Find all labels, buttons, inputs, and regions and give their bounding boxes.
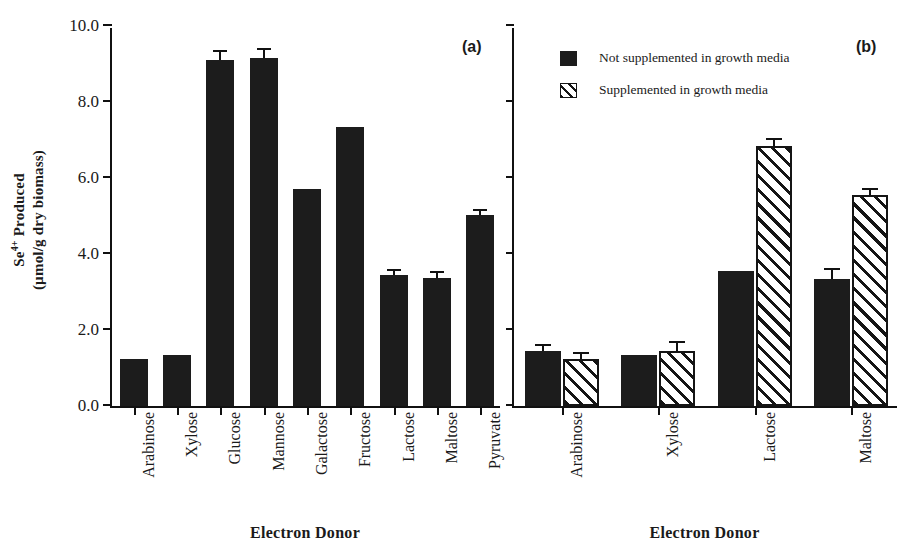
panel-a-plot-area: 0.02.04.06.08.010.0 xyxy=(110,28,500,408)
bar-b-xylose-hatch xyxy=(659,351,695,406)
panel-a-x-axis-title: Electron Donor xyxy=(110,524,500,542)
y-tick-b-0 xyxy=(506,404,514,406)
bar-b-arabinose-solid xyxy=(525,351,561,406)
panel-a-x-tick-labels: ArabinoseXyloseGlucoseMannoseGalactoseFr… xyxy=(110,412,500,516)
y-axis-title-line2: (µmol/g dry biomass) xyxy=(29,150,48,290)
figure-root: Se4+ Produced (µmol/g dry biomass) (a) 0… xyxy=(0,0,905,560)
panel-a-bars xyxy=(112,28,500,406)
bar-a-mannose xyxy=(250,58,278,406)
x-label-a-fructose: Fructose xyxy=(356,412,374,516)
x-label-a-mannose: Mannose xyxy=(270,412,288,516)
x-label-b-maltose: Maltose xyxy=(857,412,875,516)
panel-b: (b) Not supplemented in growth media Sup… xyxy=(512,28,897,410)
y-tick-label-1: 2.0 xyxy=(78,320,99,340)
x-label-a-arabinose: Arabinose xyxy=(140,412,158,516)
x-label-a-xylose: Xylose xyxy=(183,412,201,516)
bar-b-arabinose-hatch xyxy=(563,359,599,407)
x-label-b-lactose: Lactose xyxy=(761,412,779,516)
bar-a-galactose xyxy=(293,189,321,406)
bar-a-glucose xyxy=(206,60,234,406)
error-bar-stem-a-lactose xyxy=(393,271,395,275)
error-bar-stem-b-lactose-hatch xyxy=(773,140,775,146)
y-tick-a-3: 6.0 xyxy=(103,176,112,178)
y-axis-title: Se4+ Produced (µmol/g dry biomass) xyxy=(0,40,56,400)
y-tick-label-3: 6.0 xyxy=(78,168,99,188)
bar-b-xylose-solid xyxy=(621,355,657,406)
panel-a: (a) 0.02.04.06.08.010.0 ArabinoseXyloseG… xyxy=(110,28,500,410)
y-tick-b-2 xyxy=(506,252,514,254)
y-tick-b-5 xyxy=(506,24,514,26)
y-tick-a-5: 10.0 xyxy=(103,24,112,26)
y-tick-a-0: 0.0 xyxy=(103,404,112,406)
y-tick-label-2: 4.0 xyxy=(78,244,99,264)
panel-b-x-tick-labels: ArabinoseXyloseLactoseMaltose xyxy=(512,412,897,516)
error-bar-stem-a-mannose xyxy=(263,50,265,58)
bar-a-maltose xyxy=(423,278,451,406)
x-label-a-glucose: Glucose xyxy=(226,412,244,516)
y-axis-title-line1: Se4+ Produced xyxy=(9,150,29,290)
y-tick-label-4: 8.0 xyxy=(78,92,99,112)
bar-b-lactose-hatch xyxy=(756,146,792,406)
bar-b-maltose-solid xyxy=(814,279,850,406)
error-bar-stem-b-xylose-hatch xyxy=(676,343,678,351)
x-label-a-maltose: Maltose xyxy=(443,412,461,516)
x-label-a-lactose: Lactose xyxy=(400,412,418,516)
x-label-a-pyruvate: Pyruvate xyxy=(486,412,504,516)
bar-a-xylose xyxy=(163,355,191,406)
y-tick-b-4 xyxy=(506,100,514,102)
error-bar-stem-b-arabinose-solid xyxy=(542,346,544,351)
y-tick-b-1 xyxy=(506,328,514,330)
x-label-b-xylose: Xylose xyxy=(664,412,682,516)
error-bar-stem-b-arabinose-hatch xyxy=(580,354,582,359)
bar-a-lactose xyxy=(380,275,408,406)
bar-b-lactose-solid xyxy=(718,271,754,406)
y-tick-a-1: 2.0 xyxy=(103,328,112,330)
error-bar-stem-a-maltose xyxy=(436,273,438,278)
error-bar-stem-a-glucose xyxy=(219,52,221,60)
x-label-b-arabinose: Arabinose xyxy=(568,412,586,516)
panel-b-plot-area: Not supplemented in growth media Supplem… xyxy=(512,28,897,408)
panel-b-x-axis-title: Electron Donor xyxy=(512,524,897,542)
bar-a-arabinose xyxy=(120,359,148,407)
bar-a-fructose xyxy=(336,127,364,406)
y-tick-a-4: 8.0 xyxy=(103,100,112,102)
bar-b-maltose-hatch xyxy=(852,195,888,406)
error-bar-stem-b-maltose-hatch xyxy=(869,190,871,195)
y-tick-b-3 xyxy=(506,176,514,178)
y-tick-label-5: 10.0 xyxy=(69,16,99,36)
error-bar-stem-a-pyruvate xyxy=(479,211,481,216)
bar-a-pyruvate xyxy=(466,215,494,406)
error-bar-stem-b-maltose-solid xyxy=(831,270,833,278)
x-label-a-galactose: Galactose xyxy=(313,412,331,516)
y-tick-a-2: 4.0 xyxy=(103,252,112,254)
y-tick-label-0: 0.0 xyxy=(78,396,99,416)
panel-b-bars xyxy=(514,28,897,406)
